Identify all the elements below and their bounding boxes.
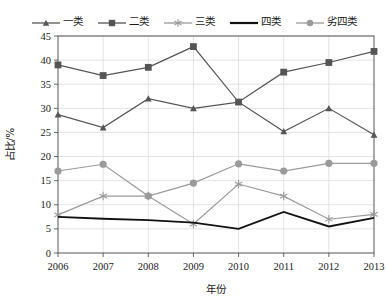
- x-axis-tick-label: 2012: [318, 261, 339, 272]
- plot-area: 0510152025303540452006200720082009201020…: [0, 0, 387, 304]
- x-axis-tick-label: 2008: [138, 261, 159, 272]
- data-point-三类-2006: [54, 211, 61, 220]
- y-axis-tick-label: 45: [41, 31, 52, 42]
- y-axis-title: 占比/%: [4, 128, 16, 162]
- data-point-劣四类-2013: [370, 160, 377, 167]
- y-axis-tick-label: 20: [41, 151, 52, 162]
- x-axis-tick-label: 2013: [364, 261, 385, 272]
- data-point-二类-2006: [55, 62, 62, 69]
- y-axis-tick-label: 0: [46, 248, 51, 259]
- x-axis-title: 年份: [206, 283, 227, 295]
- series-line-劣四类: [58, 163, 374, 196]
- data-point-三类-2011: [280, 192, 287, 201]
- data-point-二类-2008: [145, 64, 152, 71]
- y-axis-tick-label: 10: [41, 199, 52, 210]
- data-point-二类-2007: [100, 72, 107, 79]
- x-axis-tick-label: 2006: [48, 261, 69, 272]
- data-point-一类-2011: [280, 128, 287, 134]
- data-point-劣四类-2007: [100, 161, 107, 168]
- y-axis-tick-label: 30: [41, 103, 52, 114]
- data-point-二类-2009: [190, 43, 197, 50]
- data-point-一类-2008: [145, 95, 152, 101]
- y-axis-tick-label: 35: [41, 79, 52, 90]
- line-chart-svg: 0510152025303540452006200720082009201020…: [0, 0, 387, 304]
- x-axis-tick-label: 2010: [228, 261, 249, 272]
- y-axis-tick-label: 40: [41, 55, 52, 66]
- y-axis-tick-label: 5: [46, 223, 51, 234]
- data-point-劣四类-2006: [54, 167, 61, 174]
- data-point-劣四类-2012: [325, 160, 332, 167]
- data-point-劣四类-2009: [190, 179, 197, 186]
- data-point-一类-2006: [55, 111, 62, 117]
- chart-container: 一类二类三类四类劣四类 0510152025303540452006200720…: [0, 0, 387, 304]
- data-point-二类-2013: [371, 48, 378, 55]
- x-axis-tick-label: 2009: [183, 261, 204, 272]
- data-point-劣四类-2010: [235, 160, 242, 167]
- x-axis-tick-label: 2007: [93, 261, 114, 272]
- y-axis-tick-label: 25: [41, 127, 52, 138]
- y-axis-tick-label: 15: [41, 175, 52, 186]
- data-point-劣四类-2008: [145, 192, 152, 199]
- x-axis-tick-label: 2011: [273, 261, 294, 272]
- data-point-二类-2010: [235, 99, 242, 106]
- data-point-二类-2011: [280, 69, 287, 76]
- data-point-劣四类-2011: [280, 167, 287, 174]
- data-point-二类-2012: [325, 59, 332, 66]
